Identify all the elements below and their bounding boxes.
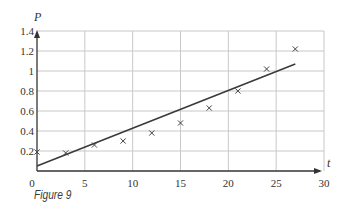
y-tick-label: 0.6 <box>20 105 34 117</box>
grid <box>37 31 324 171</box>
x-tick-label: 5 <box>82 177 88 189</box>
data-points <box>34 46 298 155</box>
tick-labels: 0510152025300.20.40.60.811.21.4 <box>20 25 330 189</box>
x-tick-label: 10 <box>127 177 139 189</box>
x-tick-label: 25 <box>271 177 283 189</box>
x-tick-label: 20 <box>223 177 235 189</box>
x-tick-label: 15 <box>175 177 187 189</box>
data-point-marker <box>207 105 212 110</box>
y-tick-label: 0.8 <box>20 85 34 97</box>
y-tick-label: 0.4 <box>20 125 34 137</box>
data-point-marker <box>121 138 126 143</box>
y-axis-label: P <box>33 10 42 24</box>
y-tick-label: 1.4 <box>20 25 34 37</box>
chart: 0510152025300.20.40.60.811.21.4 t P <box>0 0 348 214</box>
y-tick-label: 1 <box>29 65 35 77</box>
y-tick-label: 1.2 <box>20 45 34 57</box>
x-axis-label: t <box>327 156 331 170</box>
axes <box>34 30 322 174</box>
figure-caption: Figure 9 <box>34 188 71 202</box>
y-tick-label: 0.2 <box>20 145 34 157</box>
x-tick-label: 30 <box>319 177 331 189</box>
